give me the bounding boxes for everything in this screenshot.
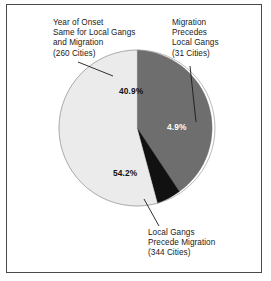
- slice-percent-onset-same: 40.9%: [119, 86, 143, 96]
- callout-label-local-precedes: Local Gangs Precede Migration (344 Citie…: [148, 228, 215, 259]
- pie-plot-area: Year of Onset Same for Local Gangs and M…: [0, 0, 271, 281]
- slice-percent-local-precedes: 54.2%: [113, 168, 137, 178]
- callout-label-onset-same: Year of Onset Same for Local Gangs and M…: [53, 18, 135, 59]
- pie-chart-figure: Year of Onset Same for Local Gangs and M…: [0, 0, 271, 281]
- pie-chart-svg: [0, 0, 271, 281]
- callout-label-migration-precedes: Migration Precedes Local Gangs (31 Citie…: [172, 18, 219, 59]
- slice-percent-migration-precedes: 4.9%: [167, 122, 187, 132]
